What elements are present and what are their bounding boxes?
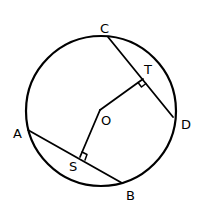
label-d: D — [181, 117, 191, 132]
label-s: S — [69, 159, 77, 174]
label-b: B — [126, 188, 135, 203]
circle — [26, 36, 176, 186]
geometry-diagram: O C T D A S B — [0, 0, 208, 212]
label-o: O — [101, 113, 111, 128]
label-a: A — [13, 126, 22, 141]
label-t: T — [143, 62, 152, 77]
segment-ot — [100, 79, 143, 110]
chord-cd — [108, 37, 173, 117]
right-angle-mark-s — [82, 152, 87, 160]
label-c: C — [100, 21, 109, 36]
segment-os — [80, 110, 100, 157]
